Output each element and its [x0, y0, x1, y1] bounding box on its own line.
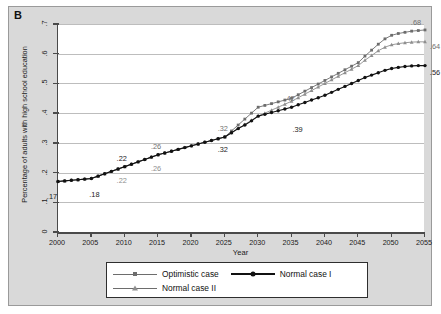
x-tick: [424, 232, 425, 237]
x-tick-label: 2000: [40, 238, 74, 247]
circle-marker: [330, 91, 333, 94]
circle-marker: [130, 163, 133, 166]
data-curves: [58, 24, 425, 232]
circle-marker: [103, 172, 106, 175]
circle-marker: [170, 149, 173, 152]
square-marker: [250, 112, 253, 115]
data-point-label: .18: [89, 189, 99, 198]
x-tick: [324, 232, 325, 237]
y-tick-label: .2: [40, 162, 49, 182]
legend-line-normal-i: [231, 273, 275, 275]
circle-marker: [110, 170, 113, 173]
circle-marker: [150, 155, 153, 158]
data-point-label: .26: [151, 141, 161, 150]
square-marker: [377, 43, 380, 46]
x-tick-label: 2010: [107, 238, 141, 247]
square-marker: [424, 29, 427, 32]
circle-marker: [70, 179, 73, 182]
circle-marker: [263, 113, 266, 116]
circle-marker: [250, 119, 253, 122]
circle-marker: [370, 73, 373, 76]
circle-marker: [423, 64, 426, 67]
circle-marker: [56, 180, 59, 183]
circle-marker: [83, 177, 86, 180]
data-point-label: .32: [218, 144, 228, 153]
legend-line-optimistic: [113, 274, 157, 275]
circle-marker: [236, 127, 239, 130]
square-marker: [417, 29, 420, 32]
x-tick-label: 2030: [240, 238, 274, 247]
triangle-marker-icon: [132, 286, 138, 291]
figure-panel-b: B Percentage of adults with high school …: [0, 0, 441, 314]
plot-area: 0.1.2.3.4.5.6.7 .17.18.22.22.26.26.32.32…: [57, 24, 424, 232]
circle-marker: [403, 65, 406, 68]
y-tick-label: .5: [40, 73, 49, 93]
x-tick: [90, 232, 91, 237]
plot-inner: 0.1.2.3.4.5.6.7 .17.18.22.22.26.26.32.32…: [58, 24, 424, 232]
legend: Optimistic case Normal case I Normal cas…: [106, 262, 368, 298]
data-point-label: .22: [117, 153, 127, 162]
square-marker: [384, 37, 387, 40]
circle-marker: [357, 79, 360, 82]
square-marker: [270, 102, 273, 105]
circle-marker: [223, 135, 226, 138]
legend-item-optimistic-case[interactable]: Optimistic case: [113, 269, 219, 279]
legend-line-normal-ii: [113, 288, 157, 289]
circle-marker: [383, 69, 386, 72]
circle-marker: [210, 139, 213, 142]
circle-marker: [397, 66, 400, 69]
circle-marker: [343, 85, 346, 88]
circle-marker: [76, 178, 79, 181]
square-marker: [257, 106, 260, 109]
legend-item-normal-case-ii[interactable]: Normal case II: [113, 283, 216, 293]
circle-marker: [203, 141, 206, 144]
square-marker: [390, 34, 393, 37]
legend-item-normal-case-i[interactable]: Normal case I: [231, 269, 332, 279]
circle-marker: [350, 82, 353, 85]
circle-marker: [323, 94, 326, 97]
x-tick: [357, 232, 358, 237]
square-marker: [370, 49, 373, 52]
circle-marker: [163, 151, 166, 154]
circle-marker: [377, 71, 380, 74]
circle-marker: [216, 137, 219, 140]
circle-marker: [337, 88, 340, 91]
circle-marker: [190, 144, 193, 147]
square-marker: [337, 72, 340, 75]
circle-marker: [303, 101, 306, 104]
x-axis-title: Year: [57, 248, 424, 257]
data-point-label: .32: [218, 123, 228, 132]
circle-marker: [243, 123, 246, 126]
x-tick-label: 2055: [407, 238, 441, 247]
circle-marker: [270, 111, 273, 114]
data-point-label: .26: [151, 163, 161, 172]
x-tick-label: 2045: [340, 238, 374, 247]
x-tick-label: 2025: [207, 238, 241, 247]
circle-marker: [363, 76, 366, 79]
y-tick-label: .6: [40, 43, 49, 63]
x-tick-label: 2050: [374, 238, 408, 247]
circle-marker: [256, 114, 259, 117]
x-tick: [157, 232, 158, 237]
square-marker: [364, 55, 367, 58]
circle-marker: [143, 158, 146, 161]
series-line-optimistic-case: [58, 30, 425, 182]
x-tick-label: 2015: [140, 238, 174, 247]
x-tick: [190, 232, 191, 237]
x-tick: [124, 232, 125, 237]
legend-label-normal-ii: Normal case II: [162, 283, 216, 293]
data-point-label: .56: [430, 67, 440, 76]
x-tick-label: 2020: [173, 238, 207, 247]
legend-label-optimistic: Optimistic case: [162, 269, 219, 279]
x-tick: [391, 232, 392, 237]
square-marker: [243, 118, 246, 121]
x-tick-label: 2035: [274, 238, 308, 247]
circle-marker: [290, 106, 293, 109]
legend-label-normal-i: Normal case I: [280, 269, 332, 279]
x-tick: [291, 232, 292, 237]
circle-marker: [176, 148, 179, 151]
square-marker: [404, 31, 407, 34]
square-marker: [277, 100, 280, 103]
data-point-label: .68: [411, 17, 421, 26]
circle-marker: [417, 64, 420, 67]
